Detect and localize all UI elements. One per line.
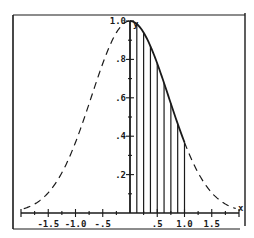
x-axis-label: x [238, 203, 244, 213]
frame [13, 13, 245, 229]
y-axis-label: y [133, 19, 139, 29]
y-tick-label: .8 [115, 54, 126, 64]
chart: -1.5-1.0-.5.51.01.5.2.4.6.81.0xy [0, 0, 254, 238]
x-tick-label: -.5 [95, 219, 111, 229]
y-tick-label: .4 [115, 131, 126, 141]
dashed-curve-right [185, 142, 236, 208]
y-tick-label: .6 [115, 93, 126, 103]
x-tick-label: 1.5 [204, 219, 220, 229]
y-tick-label: 1.0 [110, 16, 126, 26]
y-tick-label: .2 [115, 170, 126, 180]
x-tick-label: -1.5 [37, 219, 59, 229]
tick-labels: -1.5-1.0-.5.51.01.5.2.4.6.81.0xy [37, 16, 244, 229]
dashed-curve-left [24, 21, 130, 209]
x-tick-label: .5 [152, 219, 163, 229]
axes [21, 21, 239, 217]
x-tick-label: 1.0 [176, 219, 192, 229]
x-tick-label: -1.0 [65, 219, 87, 229]
